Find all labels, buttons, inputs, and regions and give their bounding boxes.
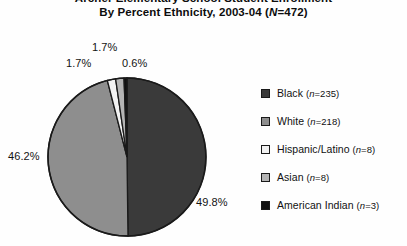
chart-title-block: Archer Elementary School Student Enrollm…	[0, 0, 407, 19]
legend-count: (n=3)	[357, 200, 380, 211]
legend-item-white[interactable]: White (n=218)	[261, 107, 405, 135]
legend-category-name: Hispanic/Latino	[277, 143, 353, 155]
pie-label-american-indian: 0.6%	[122, 57, 147, 69]
chart-figure: Archer Elementary School Student Enrollm…	[0, 0, 407, 246]
legend-category-name: Asian	[277, 171, 306, 183]
chart-subtitle-line-2: By Percent Ethnicity, 2003-04 (N=472)	[0, 5, 407, 19]
pie-svg	[47, 77, 207, 237]
pie-label-white: 46.2%	[8, 150, 40, 162]
pie-label-black: 49.8%	[196, 196, 228, 208]
subtitle-suffix: =472)	[277, 6, 307, 18]
legend-item-american-indian[interactable]: American Indian (n=3)	[261, 191, 405, 219]
legend-item-label: Asian (n=8)	[277, 171, 329, 183]
pie-label-asian: 1.7%	[92, 41, 117, 53]
legend-item-label: American Indian (n=3)	[277, 199, 379, 211]
legend-swatch-icon	[261, 89, 270, 98]
chart-legend: Black (n=235)White (n=218)Hispanic/Latin…	[261, 79, 405, 219]
legend-count: (n=8)	[306, 172, 329, 183]
legend-category-name: White	[277, 115, 307, 127]
legend-swatch-icon	[261, 173, 270, 182]
legend-swatch-icon	[261, 145, 270, 154]
pie-label-hispanic-latino: 1.7%	[66, 57, 91, 69]
pie-slice-black	[127, 78, 206, 236]
legend-swatch-icon	[261, 201, 270, 210]
legend-category-name: Black	[277, 87, 306, 99]
legend-category-name: American Indian	[277, 199, 357, 211]
legend-item-label: Hispanic/Latino (n=8)	[277, 143, 375, 155]
legend-item-asian[interactable]: Asian (n=8)	[261, 163, 405, 191]
legend-item-label: Black (n=235)	[277, 87, 339, 99]
legend-item-black[interactable]: Black (n=235)	[261, 79, 405, 107]
legend-item-label: White (n=218)	[277, 115, 340, 127]
legend-swatch-icon	[261, 117, 270, 126]
subtitle-prefix: By Percent Ethnicity, 2003-04 (	[99, 6, 269, 18]
legend-count: (n=235)	[306, 88, 339, 99]
pie-chart	[47, 77, 207, 237]
legend-item-hispanic-latino[interactable]: Hispanic/Latino (n=8)	[261, 135, 405, 163]
legend-count: (n=8)	[353, 144, 376, 155]
legend-count: (n=218)	[307, 116, 340, 127]
